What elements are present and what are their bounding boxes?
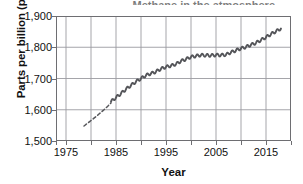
- y-tick-mark: [52, 110, 56, 111]
- x-tick-mark: [216, 141, 217, 145]
- x-axis-label: Year: [56, 166, 291, 178]
- y-tick-label: 1,700: [0, 73, 52, 85]
- x-tick-label: 1985: [93, 146, 139, 158]
- x-tick-mark: [66, 141, 67, 145]
- x-tick-mark: [116, 141, 117, 145]
- x-tick-mark: [166, 141, 167, 145]
- x-tick-mark: [291, 141, 292, 145]
- x-tick-label: 1995: [143, 146, 189, 158]
- x-tick-mark: [191, 141, 192, 145]
- y-tick-mark: [52, 141, 56, 142]
- chart-title-cutoff: Methane in the atmosphere: [0, 0, 303, 5]
- y-tick-label: 1,600: [0, 104, 52, 116]
- plot-area: [56, 16, 291, 141]
- y-tick-label: 1,900: [0, 10, 52, 22]
- x-tick-label: 2005: [193, 146, 239, 158]
- y-tick-mark: [52, 79, 56, 80]
- x-tick-label: 2015: [243, 146, 289, 158]
- y-tick-mark: [52, 47, 56, 48]
- y-tick-label: 1,800: [0, 41, 52, 53]
- plot-frame: [56, 16, 291, 141]
- x-tick-mark: [266, 141, 267, 145]
- x-tick-mark: [241, 141, 242, 145]
- methane-concentration-chart: Methane in the atmosphere Parts per bill…: [0, 0, 303, 184]
- x-tick-label: 1975: [43, 146, 89, 158]
- y-tick-mark: [52, 16, 56, 17]
- x-axis-tick-labels: 19751985199520052015: [56, 146, 291, 160]
- x-tick-mark: [141, 141, 142, 145]
- y-axis-tick-labels: 1,5001,6001,7001,8001,900: [0, 16, 52, 141]
- x-tick-mark: [91, 141, 92, 145]
- x-tick-mark: [56, 141, 57, 145]
